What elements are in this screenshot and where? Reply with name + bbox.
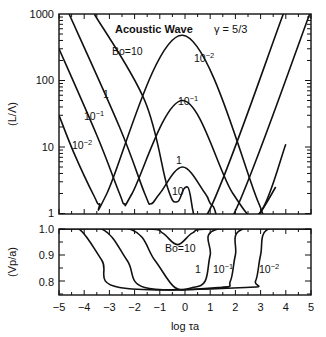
ann-m1-bottom: 10−1	[213, 262, 233, 275]
ytick-1000: 1000	[30, 8, 54, 20]
xtick-label: −2	[128, 301, 141, 313]
ann-1-peak: 1	[176, 154, 182, 166]
top-panel: 1000 100 10 1 (L/Λ) Acoustic Wave γ = 5/…	[6, 8, 311, 228]
xtick-label: 4	[283, 301, 289, 313]
ann-1-left: 1	[103, 88, 109, 100]
bottom-curve-3	[59, 227, 311, 290]
xtick-label: −4	[78, 301, 91, 313]
ytick-0.8: 0.8	[39, 276, 54, 288]
xtick-label: 5	[308, 301, 314, 313]
bottom-panel: 1.0 0.9 0.8 (Vp/a) −5−4−3−2−1012345 log …	[6, 223, 314, 332]
ann-m2-left: 10−2	[72, 138, 92, 151]
xtick-label: −3	[103, 301, 116, 313]
ann-m2-bottom: 10−2	[259, 262, 279, 275]
xtick-label: 0	[182, 301, 188, 313]
ann-m1-left: 10−1	[84, 109, 104, 122]
bottom-curve-1	[59, 227, 311, 290]
bottom-curve-2	[59, 227, 311, 290]
xtick-label: 3	[258, 301, 264, 313]
x-tick-labels: −5−4−3−2−1012345	[53, 301, 314, 313]
ann-m2-peak: 10−2	[194, 51, 214, 64]
x-axis-label: log τa	[171, 320, 200, 332]
xtick-label: 1	[207, 301, 213, 313]
xtick-label: 2	[232, 301, 238, 313]
ytick-100: 100	[36, 74, 54, 86]
ytick-10: 10	[42, 141, 54, 153]
bottom-curves	[59, 227, 311, 290]
top-curves	[59, 14, 310, 228]
chart-title: Acoustic Wave	[115, 23, 193, 35]
ann-10-min: 10	[172, 185, 184, 197]
top-y-axis-label: (L/Λ)	[6, 102, 18, 126]
xtick-label: −5	[53, 301, 66, 313]
ann-1-bottom: 1	[195, 263, 201, 275]
ytick-1.0: 1.0	[39, 223, 54, 235]
ytick-0.9: 0.9	[39, 249, 54, 261]
figure: 1000 100 10 1 (L/Λ) Acoustic Wave γ = 5/…	[0, 0, 326, 337]
bottom-y-axis-label: (Vp/a)	[6, 247, 18, 277]
ann-bo10-bottom: Bo=10	[165, 242, 196, 254]
ytick-1: 1	[48, 207, 54, 219]
xtick-label: −1	[154, 301, 167, 313]
ann-m1-peak: 10−1	[178, 94, 198, 107]
gamma-label: γ = 5/3	[214, 23, 247, 35]
ann-bo10-top: Bo=10	[112, 45, 143, 57]
